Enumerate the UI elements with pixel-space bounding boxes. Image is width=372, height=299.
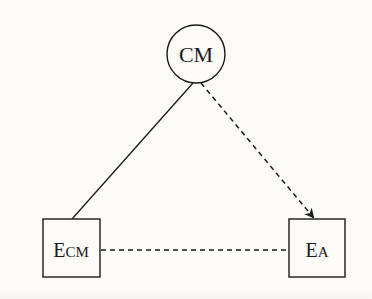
- node-ea: EA: [289, 219, 345, 277]
- scan-bleed-through: [0, 289, 372, 299]
- node-ecm-label-main: E: [53, 239, 65, 261]
- node-ea-label-sub: A: [318, 244, 329, 260]
- node-ecm-label-sub: CM: [65, 244, 88, 260]
- diagram-svg: CM ECM EA: [0, 0, 372, 299]
- edge-cm-to-ecm: [72, 83, 193, 219]
- diagram-canvas: CM ECM EA: [0, 0, 372, 299]
- node-cm-label: CM: [179, 42, 213, 67]
- node-ecm: ECM: [43, 219, 100, 277]
- node-cm: CM: [167, 25, 225, 83]
- node-ea-label-main: E: [305, 239, 317, 261]
- edge-cm-to-ea: [201, 83, 313, 217]
